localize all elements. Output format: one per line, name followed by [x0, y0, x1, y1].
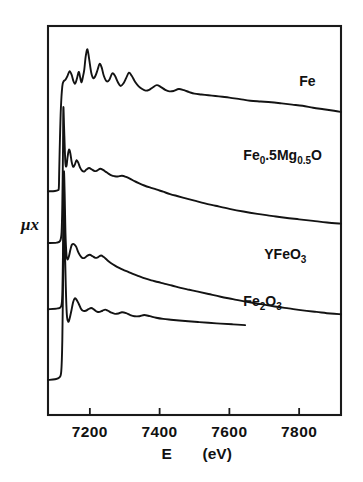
curve-label-YFeO3: YFeO3 — [264, 246, 307, 265]
x-axis-tick-label-7600: 7600 — [211, 423, 247, 440]
x-axis-tick-label-7400: 7400 — [142, 423, 178, 440]
x-axis-title-symbol: E — [161, 445, 171, 462]
xafs-figure: 7200740076007800 E (eV) μx FeFe0.5Mg0.5O… — [0, 0, 363, 482]
xafs-spectra-chart: 7200740076007800 E (eV) μx FeFe0.5Mg0.5O… — [0, 0, 363, 482]
curve-annotations: FeFe0.5Mg0.5OYFeO3Fe2O3 — [243, 73, 322, 311]
spectrum-curve-Fe0.5Mg0.5O — [48, 107, 341, 243]
x-axis-tick-label-7800: 7800 — [281, 423, 317, 440]
subscript: 0.5 — [297, 155, 311, 166]
plot-frame — [48, 26, 341, 415]
spectra-curves — [48, 49, 341, 380]
spectrum-curve-YFeO3 — [48, 171, 341, 314]
x-axis-title-units: (eV) — [203, 445, 232, 462]
x-axis-tick-labels: 7200740076007800 — [72, 423, 317, 440]
subscript: 3 — [276, 301, 282, 312]
x-axis-title-group: E (eV) — [161, 445, 231, 462]
spectrum-curve-Fe2O3 — [48, 208, 245, 380]
y-axis-title-group: μx — [20, 215, 39, 234]
curve-label-Fe2O3: Fe2O3 — [243, 293, 282, 312]
x-axis-tick-label-7200: 7200 — [72, 423, 108, 440]
y-axis-title: μx — [20, 215, 39, 234]
plot-frame-group — [48, 26, 341, 415]
curve-label-Fe: Fe — [299, 73, 316, 89]
curve-label-Fe0.5Mg0.5O: Fe0.5Mg0.5O — [243, 147, 322, 166]
subscript: 3 — [301, 254, 307, 265]
